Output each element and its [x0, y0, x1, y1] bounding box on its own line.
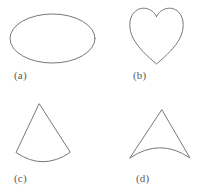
shape-d-concave-triangle: [130, 110, 190, 158]
figure-panel: (a) (b) (c) (d): [0, 0, 208, 195]
panel-label-a: (a): [14, 70, 27, 81]
ellipse-outline: [10, 14, 95, 63]
concave-triangle-outline: [130, 110, 190, 158]
shape-c-cone: [16, 104, 70, 162]
panel-label-c: (c): [14, 173, 27, 184]
shapes-canvas: [0, 0, 208, 195]
heart-outline: [130, 8, 183, 64]
panel-label-d: (d): [136, 173, 149, 184]
shape-a-ellipse: [10, 14, 95, 63]
shape-b-heart: [130, 8, 183, 64]
panel-label-b: (b): [133, 70, 146, 81]
cone-outline: [16, 104, 70, 162]
